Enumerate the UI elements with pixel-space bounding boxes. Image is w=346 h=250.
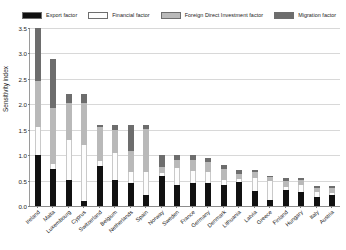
stacked-bar[interactable] — [159, 155, 165, 206]
stacked-bar[interactable] — [329, 186, 335, 206]
bar-segment-export — [314, 197, 320, 206]
bar-segment-export — [267, 200, 273, 206]
bar-segment-fdi — [128, 151, 134, 172]
stacked-bar[interactable] — [50, 59, 56, 206]
y-axis-tick-label: 3.0 — [18, 50, 27, 57]
bar-segment-fdi — [143, 129, 149, 172]
bar-segment-export — [298, 192, 304, 206]
bar-slot — [92, 28, 108, 206]
x-axis-tick-mark — [331, 206, 332, 208]
bar-segment-fdi — [66, 103, 72, 140]
bar-segment-export — [174, 185, 180, 206]
y-axis-tick-label: 2.0 — [18, 101, 27, 108]
x-axis-tick-mark — [254, 206, 255, 208]
y-axis-tick-label: 1.5 — [18, 126, 27, 133]
x-axis-label-slot: France — [184, 208, 200, 250]
x-axis-tick-mark — [37, 206, 38, 208]
x-axis-label-slot: Sweden — [169, 208, 185, 250]
x-axis-tick-mark — [52, 206, 53, 208]
legend-label-financial: Financial factor — [112, 12, 149, 18]
legend-swatch-financial — [88, 12, 108, 19]
stacked-bar[interactable] — [205, 158, 211, 206]
legend-item-fdi: Foreign Direct Investment factor — [161, 12, 263, 19]
stacked-bar[interactable] — [283, 178, 289, 206]
stacked-bar[interactable] — [66, 94, 72, 206]
x-axis-label-slot: Germany — [200, 208, 216, 250]
bar-segment-export — [50, 169, 56, 206]
x-axis-tick-mark — [207, 206, 208, 208]
bar-segment-export — [252, 191, 258, 206]
stacked-bar[interactable] — [174, 155, 180, 206]
bar-segment-export — [128, 183, 134, 206]
bar-segment-export — [66, 180, 72, 206]
x-axis-label-slot: Lithuania — [231, 208, 247, 250]
stacked-bar[interactable] — [112, 125, 118, 206]
bar-segment-financial — [35, 127, 41, 155]
stacked-bar[interactable] — [128, 125, 134, 206]
y-axis-tick-label: 3.5 — [18, 25, 27, 32]
bar-segment-fdi — [97, 127, 103, 162]
x-axis-label-slot: Switzerland — [91, 208, 107, 250]
x-axis-tick-mark — [145, 206, 146, 208]
stacked-bar[interactable] — [252, 170, 258, 206]
x-axis-label-slot: Hungary — [293, 208, 309, 250]
legend-label-export: Export factor — [46, 12, 77, 18]
bar-segment-financial — [112, 153, 118, 179]
bar-slot — [309, 28, 325, 206]
chart-figure: Export factor Financial factor Foreign D… — [0, 0, 346, 250]
stacked-bar[interactable] — [190, 155, 196, 206]
bar-slot — [61, 28, 77, 206]
bar-segment-financial — [267, 181, 273, 200]
stacked-bar[interactable] — [314, 186, 320, 206]
x-axis-label-slot: Ireland — [29, 208, 45, 250]
bar-segment-export — [143, 195, 149, 206]
bar-segment-export — [190, 183, 196, 206]
stacked-bar[interactable] — [298, 178, 304, 206]
bar-segment-financial — [205, 172, 211, 183]
bar-segment-financial — [66, 140, 72, 180]
bar-slot — [170, 28, 186, 206]
y-axis-tick-label: 0.0 — [18, 203, 27, 210]
stacked-bar[interactable] — [97, 125, 103, 206]
bar-slot — [108, 28, 124, 206]
x-axis-tick-mark — [114, 206, 115, 208]
bar-segment-export — [236, 182, 242, 206]
bar-segment-export — [221, 185, 227, 206]
stacked-bar[interactable] — [81, 94, 87, 206]
x-axis-labels: IrelandMaltaLuxembourgCyprusSwitzerlandB… — [29, 208, 339, 250]
bar-slot — [247, 28, 263, 206]
bar-slot — [154, 28, 170, 206]
bar-segment-export — [112, 180, 118, 206]
bar-segment-fdi — [205, 162, 211, 172]
bar-segment-financial — [143, 172, 149, 195]
bar-slot — [46, 28, 62, 206]
bar-segment-fdi — [81, 103, 87, 145]
stacked-bar[interactable] — [267, 176, 273, 206]
legend-item-export: Export factor — [22, 12, 77, 19]
bar-segment-migration — [35, 28, 41, 81]
chart-legend: Export factor Financial factor Foreign D… — [22, 9, 340, 21]
stacked-bar[interactable] — [221, 165, 227, 206]
legend-swatch-migration — [274, 12, 294, 19]
bar-segment-migration — [159, 155, 165, 167]
legend-item-migration: Migration factor — [274, 12, 336, 19]
bar-segment-financial — [190, 171, 196, 182]
bar-slot — [123, 28, 139, 206]
legend-swatch-export — [22, 12, 42, 19]
legend-swatch-fdi — [161, 12, 181, 19]
x-axis-tick-mark — [192, 206, 193, 208]
bar-segment-financial — [128, 172, 134, 182]
x-axis-label-slot: Greece — [262, 208, 278, 250]
stacked-bar[interactable] — [236, 170, 242, 206]
bar-segment-export — [97, 166, 103, 206]
stacked-bar[interactable] — [143, 125, 149, 206]
stacked-bar[interactable] — [35, 28, 41, 206]
bar-slot — [278, 28, 294, 206]
bar-segment-fdi — [221, 169, 227, 179]
x-axis-tick-mark — [68, 206, 69, 208]
y-axis-title-wrap: Sensitivity index — [3, 0, 13, 178]
bar-segment-export — [329, 195, 335, 206]
bar-slot — [294, 28, 310, 206]
x-axis-label-slot: Spain — [138, 208, 154, 250]
bar-segment-export — [283, 190, 289, 206]
